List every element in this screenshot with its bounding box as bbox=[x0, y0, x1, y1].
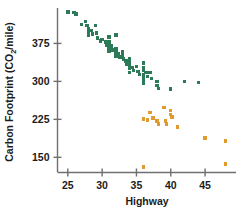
data-points-group bbox=[66, 10, 227, 168]
series-green-group bbox=[66, 10, 200, 90]
data-point bbox=[224, 139, 227, 142]
data-point bbox=[117, 52, 120, 55]
data-point bbox=[197, 81, 200, 84]
data-point bbox=[74, 12, 77, 15]
data-point bbox=[142, 66, 145, 69]
data-point bbox=[84, 20, 87, 23]
data-point bbox=[165, 122, 168, 125]
data-point bbox=[142, 76, 145, 79]
data-point bbox=[176, 125, 179, 128]
data-point bbox=[107, 49, 110, 52]
y-tick-label: 375 bbox=[32, 37, 50, 49]
data-point bbox=[124, 59, 127, 62]
data-point bbox=[135, 65, 138, 68]
series-orange-group bbox=[142, 106, 228, 169]
x-tick-label: 25 bbox=[62, 179, 74, 191]
x-axis-title: Highway bbox=[125, 195, 168, 207]
data-point bbox=[170, 115, 173, 118]
data-point bbox=[148, 71, 151, 74]
data-point bbox=[157, 122, 160, 125]
data-point bbox=[151, 116, 154, 119]
data-point bbox=[148, 111, 151, 114]
y-tick-label: 225 bbox=[32, 113, 50, 125]
data-point bbox=[121, 54, 124, 57]
x-tick-label: 30 bbox=[96, 179, 108, 191]
data-point bbox=[100, 38, 103, 41]
data-point bbox=[114, 33, 117, 36]
data-point bbox=[87, 33, 90, 36]
data-point bbox=[203, 136, 206, 139]
x-tick-label: 40 bbox=[165, 179, 177, 191]
data-point bbox=[96, 36, 99, 39]
data-point bbox=[136, 70, 139, 73]
y-tick-label: 300 bbox=[32, 75, 50, 87]
data-point bbox=[131, 66, 134, 69]
data-point bbox=[169, 87, 172, 90]
y-axis-title-main: Carbon Footprint (CO bbox=[3, 54, 15, 162]
data-point bbox=[142, 61, 145, 64]
data-point bbox=[85, 24, 88, 27]
data-point bbox=[80, 23, 83, 26]
data-point bbox=[157, 87, 160, 90]
data-point bbox=[142, 117, 145, 120]
data-point bbox=[155, 84, 158, 87]
data-point bbox=[107, 40, 110, 43]
y-axis-title: Carbon Footprint (CO2/mile) bbox=[3, 22, 18, 162]
data-point bbox=[66, 10, 69, 13]
data-point bbox=[150, 77, 153, 80]
data-point bbox=[104, 40, 107, 43]
data-point bbox=[111, 48, 114, 51]
data-point bbox=[121, 50, 124, 53]
data-point bbox=[132, 69, 135, 72]
data-point bbox=[128, 71, 131, 74]
data-point bbox=[91, 32, 94, 35]
data-point bbox=[162, 106, 165, 109]
data-point bbox=[95, 31, 98, 34]
data-point bbox=[164, 119, 167, 122]
data-point bbox=[169, 109, 172, 112]
y-tick-label: 150 bbox=[32, 151, 50, 163]
data-point bbox=[183, 80, 186, 83]
data-point bbox=[146, 118, 149, 121]
data-point bbox=[89, 29, 92, 32]
data-point bbox=[138, 73, 141, 76]
data-point bbox=[142, 82, 145, 85]
svg-text:Carbon Footprint (CO2/mile): Carbon Footprint (CO2/mile) bbox=[3, 22, 18, 162]
data-point bbox=[128, 60, 131, 63]
data-point bbox=[146, 75, 149, 78]
data-point bbox=[94, 24, 97, 27]
x-tick-label: 35 bbox=[131, 179, 143, 191]
data-point bbox=[142, 79, 145, 82]
y-axis-title-tail: /mile) bbox=[3, 22, 15, 49]
data-point bbox=[144, 71, 147, 74]
data-point bbox=[110, 44, 113, 47]
data-point bbox=[155, 80, 158, 83]
data-point bbox=[142, 165, 145, 168]
plot-canvas: 150225300375 2530354045 Highway Carbon F… bbox=[0, 0, 242, 219]
data-point bbox=[107, 35, 110, 38]
x-tick-label: 45 bbox=[199, 179, 211, 191]
scatter-plot-figure: 150225300375 2530354045 Highway Carbon F… bbox=[0, 0, 242, 219]
data-point bbox=[114, 47, 117, 50]
data-point bbox=[155, 119, 158, 122]
data-point bbox=[224, 162, 227, 165]
data-point bbox=[128, 57, 131, 60]
